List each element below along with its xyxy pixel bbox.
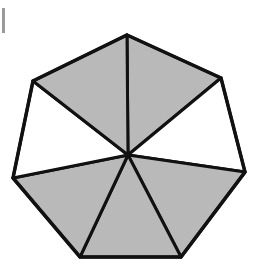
heptagon-diagram — [0, 0, 257, 265]
sector-group — [13, 35, 245, 257]
